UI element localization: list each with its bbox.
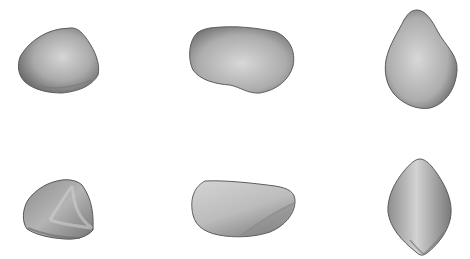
asteroid-model-bottom-center [192,181,295,237]
asteroid-model-bottom-left [23,180,93,239]
asteroid-model-top-right [385,10,457,108]
asteroid-model-top-left [18,28,98,93]
asteroid-model-top-center [190,27,294,93]
asteroid-shape-models-figure [0,0,470,259]
asteroid-model-bottom-right [388,159,451,255]
